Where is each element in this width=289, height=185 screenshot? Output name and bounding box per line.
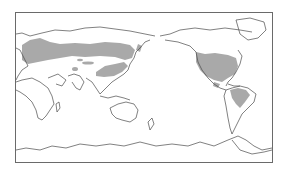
shade-south-america [230, 88, 250, 108]
shade-central-asia-1 [82, 61, 94, 64]
shaded-regions [22, 38, 250, 108]
world-map [0, 0, 289, 185]
coastlines [16, 18, 272, 154]
shade-north-america [196, 52, 238, 82]
shade-central-asia-3 [72, 67, 78, 71]
shade-central-asia-2 [77, 59, 83, 61]
